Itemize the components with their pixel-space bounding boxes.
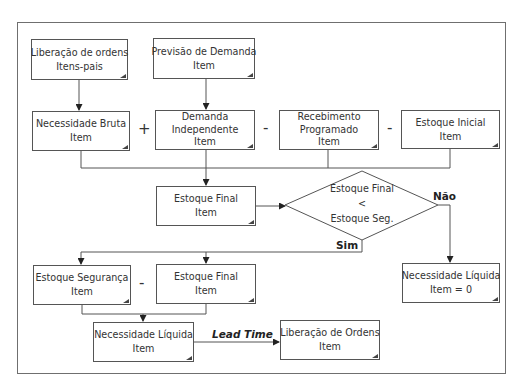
box-label: Item — [195, 284, 217, 298]
box-recebimento-programado: Recebimento Programado Item — [279, 110, 379, 150]
box-label: Necessidade Bruta — [36, 117, 126, 131]
branch-label-no: Não — [433, 190, 456, 202]
box-label: Programado — [300, 124, 358, 137]
box-necessidade-liquida: Necessidade Líquida Item — [93, 322, 194, 362]
box-label: Liberação de ordens — [31, 46, 129, 60]
box-label: Independente — [172, 124, 239, 137]
box-estoque-inicial: Estoque Inicial Item — [401, 110, 500, 149]
box-label: Liberação de Ordens — [280, 326, 379, 340]
minus-operator: - — [387, 121, 392, 136]
box-necessidade-liquida-zero: Necessidade Líquida Item = 0 — [402, 263, 500, 303]
plus-operator: + — [138, 122, 151, 137]
box-estoque-final: Estoque Final Item — [156, 186, 256, 226]
lead-time-label: Lead Time — [212, 328, 273, 340]
box-label: Necessidade Líquida — [402, 269, 501, 283]
box-previsao-demanda: Previsão de Demanda Item — [153, 38, 255, 79]
box-label: Item — [319, 340, 341, 354]
box-label: Item — [133, 342, 155, 356]
box-label: Item — [440, 130, 462, 144]
box-label: Estoque Inicial — [416, 116, 486, 130]
box-label: Recebimento — [297, 111, 360, 124]
box-liberacao-itens-pais: Liberação de ordens Itens-pais — [31, 39, 128, 80]
decision-label: Estoque Final — [300, 181, 424, 196]
box-label: Necessidade Líquida — [94, 328, 193, 342]
minus-operator: - — [139, 276, 144, 291]
box-label: Item — [71, 285, 93, 299]
box-label: Item — [70, 131, 92, 145]
box-label: Estoque Final — [174, 270, 238, 284]
box-estoque-seguranca: Estoque Segurança Item — [33, 265, 131, 305]
branch-label-yes: Sim — [336, 239, 358, 251]
decision-label: < — [300, 196, 424, 211]
box-label: Item = 0 — [430, 283, 472, 297]
box-label: Item — [318, 136, 340, 149]
box-label: Demanda — [182, 111, 229, 124]
box-label: Item — [194, 136, 216, 149]
decision-diamond: Estoque Final < Estoque Seg. — [300, 181, 424, 226]
minus-operator: - — [263, 121, 268, 136]
box-label: Previsão de Demanda — [152, 45, 257, 59]
box-necessidade-bruta: Necessidade Bruta Item — [32, 111, 130, 151]
box-label: Item — [193, 59, 215, 73]
box-label: Itens-pais — [56, 60, 103, 74]
box-estoque-final-2: Estoque Final Item — [156, 264, 256, 304]
box-label: Item — [195, 206, 217, 220]
decision-label: Estoque Seg. — [300, 211, 424, 226]
box-demanda-independente: Demanda Independente Item — [155, 110, 255, 150]
box-label: Estoque Segurança — [35, 271, 128, 285]
box-liberacao-ordens: Liberação de Ordens Item — [280, 320, 380, 360]
box-label: Estoque Final — [174, 192, 238, 206]
